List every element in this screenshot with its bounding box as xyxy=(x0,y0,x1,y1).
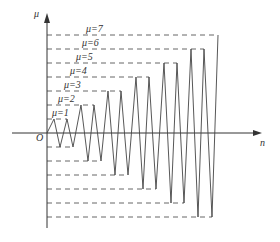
y-axis-arrow-icon xyxy=(44,13,50,23)
axes xyxy=(12,20,258,228)
level-label-2: μ=2 xyxy=(57,93,75,104)
level-label-3: μ=3 xyxy=(63,79,81,90)
level-label-7: μ=7 xyxy=(85,23,104,34)
level-label-4: μ=4 xyxy=(69,65,87,76)
origin-label: O xyxy=(36,132,43,143)
x-axis-label: n xyxy=(260,137,265,148)
cyclic-loading-diagram: μ n O μ=1μ=2μ=3μ=4μ=5μ=6μ=7 xyxy=(0,0,280,242)
level-lines xyxy=(47,35,218,217)
level-label-5: μ=5 xyxy=(75,51,93,62)
x-axis-arrow-icon xyxy=(253,130,262,136)
y-axis-label: μ xyxy=(33,8,39,19)
load-waveform xyxy=(47,35,218,217)
level-label-1: μ=1 xyxy=(51,107,69,118)
level-label-6: μ=6 xyxy=(81,37,99,48)
